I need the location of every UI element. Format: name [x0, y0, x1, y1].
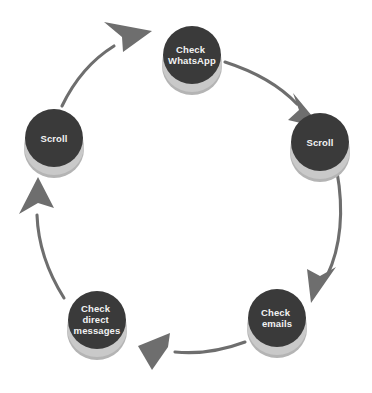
arrow-path	[62, 46, 114, 106]
arrow-head-icon	[138, 333, 170, 370]
node-disc	[248, 289, 306, 347]
arrow-head-icon	[307, 267, 336, 303]
node-disc	[291, 113, 349, 171]
arrow-path	[225, 62, 297, 104]
arrow-path	[327, 172, 341, 276]
node-check-emails[interactable]: Check emails	[247, 289, 307, 358]
cycle-diagram: Check WhatsApp Scroll Check emails	[0, 0, 372, 393]
node-disc	[25, 109, 83, 167]
arrow-scroll-right-to-emails	[307, 172, 341, 303]
node-disc	[163, 26, 221, 84]
arrow-path	[175, 342, 245, 353]
arrow-head-icon	[19, 177, 54, 214]
arrow-emails-to-direct-messages	[138, 333, 245, 370]
arrow-direct-messages-to-scroll-left	[19, 177, 64, 298]
node-scroll-right[interactable]: Scroll	[290, 113, 350, 182]
arrow-path	[37, 215, 64, 298]
node-disc	[68, 291, 126, 349]
node-check-whatsapp[interactable]: Check WhatsApp	[162, 26, 222, 95]
node-scroll-left[interactable]: Scroll	[24, 109, 84, 178]
arrow-scroll-left-to-whatsapp	[62, 22, 152, 106]
cycle-diagram-canvas: Check WhatsApp Scroll Check emails	[0, 0, 372, 393]
node-check-direct-messages[interactable]: Check direct messages	[67, 291, 127, 360]
